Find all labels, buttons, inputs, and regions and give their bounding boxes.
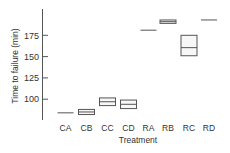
box-rb <box>160 20 176 23</box>
x-category-label: CD <box>122 123 134 133</box>
y-tick-label: 100 <box>24 94 39 104</box>
box-cd <box>121 100 137 109</box>
x-category-label: CC <box>101 123 113 133</box>
x-category-label: RA <box>143 123 155 133</box>
y-tick-label: 125 <box>24 73 39 83</box>
x-category-label: RC <box>183 123 195 133</box>
x-category-label: RD <box>203 123 215 133</box>
x-category-label: RB <box>162 123 174 133</box>
x-category-label: CA <box>60 123 72 133</box>
box-cb <box>79 109 95 114</box>
y-tick-label: 150 <box>24 52 39 62</box>
x-axis-title: Treatment <box>119 135 158 145</box>
x-axis: CACBCCCDRARBRCRD Treatment <box>60 123 216 145</box>
iqr-box <box>181 35 197 55</box>
x-category-label: CB <box>81 123 93 133</box>
box-cc <box>100 98 116 106</box>
plot-area <box>58 20 218 115</box>
box-rc <box>181 35 197 55</box>
y-tick-label: 175 <box>24 31 39 41</box>
y-axis-title: Time to failure (min) <box>10 28 20 103</box>
y-axis: 100125150175 Time to failure (min) <box>10 9 49 120</box>
box-plot-chart: 100125150175 Time to failure (min) CACBC… <box>0 0 230 153</box>
